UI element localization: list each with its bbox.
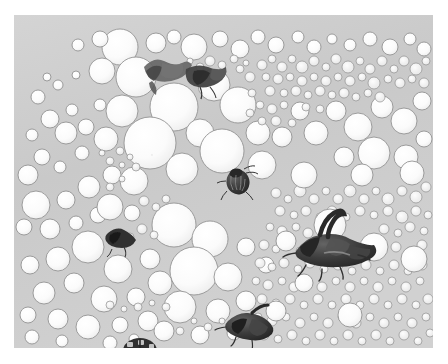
bubble-field-photograph	[14, 15, 433, 348]
photograph-plate	[14, 15, 433, 348]
image-caption	[14, 350, 433, 362]
image-canvas	[0, 0, 448, 364]
grain-overlay	[14, 15, 433, 348]
